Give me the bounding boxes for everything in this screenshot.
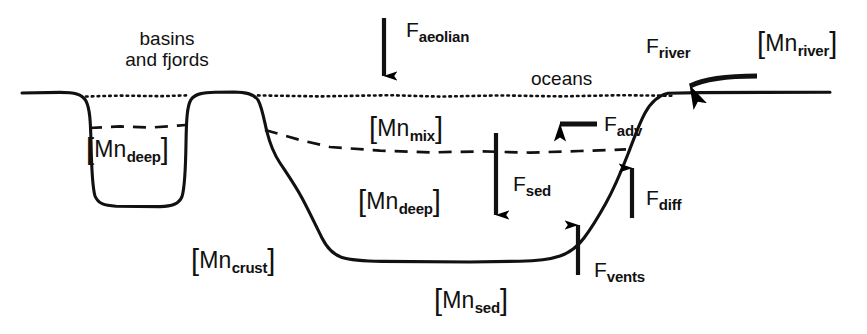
flux-subscript: adv bbox=[617, 122, 642, 139]
flux-subscript: diff bbox=[659, 196, 682, 213]
f-vents-label: Fvents bbox=[594, 258, 645, 282]
mn-subscript: deep bbox=[399, 200, 433, 217]
flux-symbol: F bbox=[646, 34, 659, 57]
bracket-close: ] bbox=[433, 185, 441, 217]
mn-subscript: river bbox=[798, 42, 830, 59]
basins-line-1: basins bbox=[103, 28, 231, 49]
mixed-layer-base-line bbox=[89, 125, 626, 153]
mn-symbol: Mn bbox=[366, 188, 398, 214]
bracket-close: ] bbox=[161, 133, 169, 165]
bracket-open: [ bbox=[434, 284, 442, 316]
flux-symbol: F bbox=[513, 172, 526, 195]
flux-subscript: aeolian bbox=[419, 28, 469, 45]
f-sed-label: Fsed bbox=[513, 172, 551, 196]
mn-symbol: Mn bbox=[199, 247, 231, 273]
mn-cycle-diagram: basins and fjords oceans [Mndeep] [Mnmix… bbox=[0, 0, 867, 334]
sea-surface-line bbox=[86, 95, 672, 96]
flux-symbol: F bbox=[604, 112, 617, 135]
oceans-label: oceans bbox=[531, 68, 592, 89]
mn-subscript: sed bbox=[475, 299, 500, 316]
flux-subscript: vents bbox=[607, 268, 645, 285]
mn-mix-label: [Mnmix] bbox=[369, 110, 443, 142]
mn-subscript: mix bbox=[410, 127, 435, 144]
f-aeolian-label: Faeolian bbox=[406, 18, 469, 42]
mn-symbol: Mn bbox=[94, 136, 126, 162]
flux-subscript: sed bbox=[526, 182, 551, 199]
bracket-close: ] bbox=[435, 112, 443, 144]
bracket-open: [ bbox=[757, 27, 765, 59]
mn-subscript: crust bbox=[232, 259, 268, 276]
bracket-open: [ bbox=[86, 133, 94, 165]
bracket-open: [ bbox=[191, 244, 199, 276]
mn-symbol: Mn bbox=[442, 287, 474, 313]
flux-symbol: F bbox=[594, 258, 607, 281]
basins-and-fjords-label: basins and fjords bbox=[103, 28, 231, 71]
bracket-open: [ bbox=[369, 112, 377, 144]
basins-line-2: and fjords bbox=[103, 49, 231, 70]
bracket-close: ] bbox=[500, 284, 508, 316]
flux-symbol: F bbox=[406, 18, 419, 41]
mn-symbol: Mn bbox=[377, 115, 409, 141]
mn-symbol: Mn bbox=[765, 30, 797, 56]
f-diff-label: Fdiff bbox=[646, 186, 681, 210]
flux-arrows bbox=[384, 18, 632, 275]
bracket-close: ] bbox=[267, 244, 275, 276]
bracket-open: [ bbox=[358, 185, 366, 217]
mn-deep-ocean-label: [Mndeep] bbox=[358, 183, 441, 215]
flux-symbol: F bbox=[646, 186, 659, 209]
bracket-close: ] bbox=[829, 27, 837, 59]
flux-subscript: river bbox=[659, 44, 691, 61]
f-river-label: Friver bbox=[646, 34, 690, 58]
mn-sed-label: [Mnsed] bbox=[434, 282, 508, 314]
mn-deep-basin-label: [Mndeep] bbox=[86, 131, 169, 163]
mn-crust-label: [Mncrust] bbox=[191, 242, 276, 274]
mn-river-label: [Mnriver] bbox=[757, 25, 837, 57]
river-inflow-line bbox=[690, 76, 757, 86]
mn-subscript: deep bbox=[127, 148, 161, 165]
f-adv-label: Fadv bbox=[604, 112, 642, 136]
